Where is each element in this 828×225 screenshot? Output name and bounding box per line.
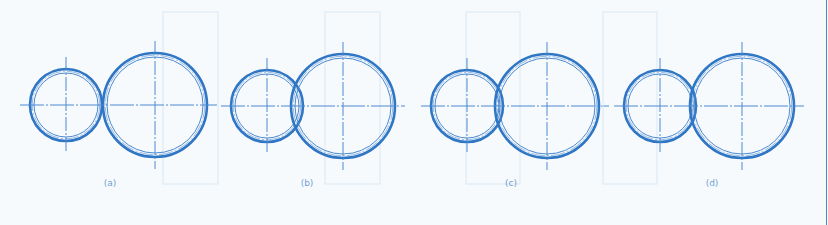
figure-caption: (a) — [104, 178, 117, 188]
page-edge-line — [826, 0, 827, 225]
figure-caption: (c) — [505, 178, 517, 188]
gear-circles-diagram — [0, 0, 828, 225]
figure-caption: (b) — [301, 178, 314, 188]
figure-caption: (d) — [706, 178, 719, 188]
ghost-rect — [466, 12, 520, 184]
ghost-rect — [163, 12, 218, 184]
ghost-rect — [603, 12, 657, 184]
